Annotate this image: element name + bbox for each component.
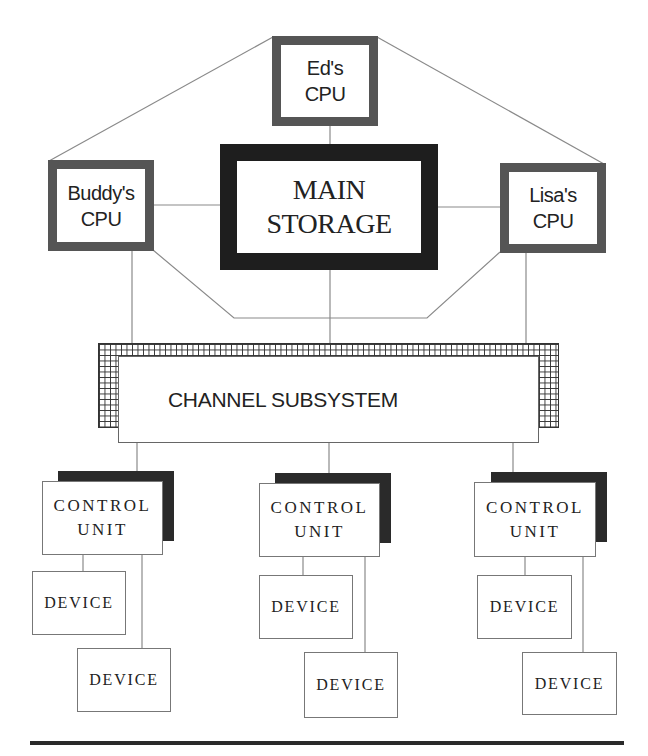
control-unit-middle: CONTROL UNIT: [259, 483, 380, 557]
device-label: DEVICE: [535, 675, 604, 693]
main-storage-label-line1: MAIN: [293, 173, 366, 207]
buddys-cpu-label-line2: CPU: [81, 206, 122, 232]
eds-cpu-box: Ed's CPU: [272, 36, 378, 126]
device-right-1: DEVICE: [477, 575, 572, 639]
lisas-cpu-box: Lisa's CPU: [500, 163, 606, 253]
bottom-rule-divider: [30, 741, 624, 745]
control-unit-label-line1: CONTROL: [271, 496, 369, 520]
main-storage-label-line2: STORAGE: [266, 207, 391, 241]
channel-subsystem-label: CHANNEL SUBSYSTEM: [168, 388, 398, 412]
control-unit-label-line2: UNIT: [294, 520, 345, 544]
control-unit-label-line2: UNIT: [510, 520, 561, 544]
lisas-cpu-label-line2: CPU: [533, 208, 574, 234]
eds-cpu-label-line2: CPU: [305, 81, 346, 107]
device-label: DEVICE: [271, 598, 340, 616]
eds-cpu-label-line1: Ed's: [307, 55, 343, 81]
lisas-cpu-label-line1: Lisa's: [529, 182, 577, 208]
device-middle-1: DEVICE: [259, 575, 353, 639]
main-storage-box: MAIN STORAGE: [220, 144, 438, 270]
buddys-cpu-label-line1: Buddy's: [67, 180, 134, 206]
device-label: DEVICE: [44, 594, 113, 612]
device-left-2: DEVICE: [77, 648, 171, 712]
device-left-1: DEVICE: [32, 571, 126, 635]
control-unit-label-line2: UNIT: [77, 518, 128, 542]
device-label: DEVICE: [490, 598, 559, 616]
device-middle-2: DEVICE: [304, 652, 398, 718]
device-label: DEVICE: [89, 671, 158, 689]
device-right-2: DEVICE: [522, 652, 617, 715]
control-unit-label-line1: CONTROL: [54, 494, 152, 518]
buddys-cpu-box: Buddy's CPU: [48, 160, 154, 251]
control-unit-label-line1: CONTROL: [486, 496, 584, 520]
channel-subsystem-box: CHANNEL SUBSYSTEM: [118, 356, 539, 443]
device-label: DEVICE: [316, 676, 385, 694]
control-unit-right: CONTROL UNIT: [474, 482, 596, 557]
control-unit-left: CONTROL UNIT: [42, 481, 163, 555]
